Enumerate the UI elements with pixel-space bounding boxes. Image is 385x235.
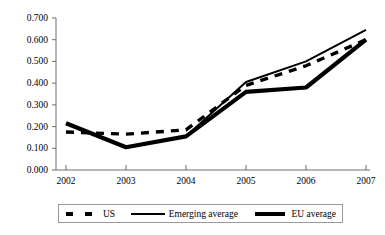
- series-line-eu-average: [66, 40, 366, 147]
- series-line-emerging-average: [66, 30, 366, 147]
- thin-solid-line-marker-icon: [131, 209, 165, 219]
- thick-solid-line-marker-icon: [253, 209, 287, 219]
- x-tick-label: 2006: [289, 176, 323, 186]
- y-tick-label: 0.700: [14, 13, 48, 23]
- legend-label-us: US: [103, 209, 115, 219]
- x-tick-label: 2007: [349, 176, 383, 186]
- legend-entry-emerging-average[interactable]: Emerging average: [131, 209, 238, 219]
- x-tick-label: 2004: [169, 176, 203, 186]
- x-axis-ticks: [66, 165, 366, 170]
- legend-label-emerging-average: Emerging average: [169, 209, 238, 219]
- data-series-group: [66, 30, 366, 147]
- legend-label-eu-average: EU average: [291, 209, 336, 219]
- y-tick-label: 0.000: [14, 165, 48, 175]
- chart-legend: US Emerging average EU average: [58, 204, 343, 223]
- x-tick-label: 2005: [229, 176, 263, 186]
- dashed-line-marker-icon: [65, 209, 99, 219]
- x-tick-label: 2003: [109, 176, 143, 186]
- y-tick-label: 0.200: [14, 122, 48, 132]
- y-tick-label: 0.100: [14, 143, 48, 153]
- line-chart-figure: 0.700 0.600 0.500 0.400 0.300 0.200 0.10…: [0, 0, 385, 235]
- y-tick-label: 0.400: [14, 78, 48, 88]
- plot-area: [0, 0, 385, 235]
- legend-entry-eu-average[interactable]: EU average: [253, 209, 336, 219]
- y-tick-label: 0.300: [14, 100, 48, 110]
- y-tick-label: 0.600: [14, 35, 48, 45]
- y-axis-ticks: [52, 18, 56, 170]
- x-tick-label: 2002: [49, 176, 83, 186]
- axis-lines: [56, 18, 370, 170]
- legend-entry-us[interactable]: US: [65, 209, 115, 219]
- y-tick-label: 0.500: [14, 56, 48, 66]
